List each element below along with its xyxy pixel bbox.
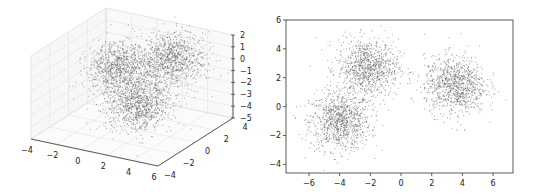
x-tick-label: −6 — [303, 179, 315, 188]
tick-label: 2 — [224, 135, 229, 144]
tick-label: −4 — [240, 102, 252, 111]
plot-frame — [286, 20, 513, 173]
y-axis-ticks: 6420−2−4 — [269, 16, 286, 169]
scatter-3d-panel: −4−20246−4−2024210−1−2−3−4−5 — [0, 0, 268, 194]
tick-label: 6 — [151, 173, 156, 182]
y-tick-label: 2 — [276, 74, 281, 83]
y-tick-label: 0 — [276, 103, 281, 112]
tick-label: −2 — [47, 151, 59, 160]
y-tick-label: 4 — [276, 45, 281, 54]
scatter-2d-plot: −6−4−20246 6420−2−4 — [268, 0, 534, 194]
3d-axis-panes — [31, 8, 233, 166]
tick-label: −1 — [240, 67, 252, 76]
scatter-3d-plot: −4−20246−4−2024210−1−2−3−4−5 — [0, 0, 268, 194]
x-tick-label: −4 — [334, 179, 346, 188]
tick-label: 0 — [240, 55, 245, 64]
x-axis-ticks: −6−4−20246 — [303, 173, 495, 188]
2d-scatter-points — [286, 26, 506, 171]
tick-label: 2 — [240, 31, 245, 40]
tick-label: −2 — [240, 78, 252, 87]
x-tick-label: 4 — [460, 179, 465, 188]
tick-label: −4 — [164, 171, 176, 180]
tick-label: −5 — [240, 114, 252, 123]
tick-label: −4 — [21, 146, 33, 155]
x-tick-label: −2 — [364, 179, 376, 188]
x-tick-label: 2 — [429, 179, 434, 188]
tick-label: −3 — [240, 90, 252, 99]
tick-label: −2 — [183, 159, 195, 168]
y-tick-label: 6 — [276, 16, 281, 25]
x-tick-label: 6 — [491, 179, 496, 188]
y-tick-label: −2 — [269, 131, 281, 140]
tick-label: 0 — [75, 157, 80, 166]
tick-label: 0 — [205, 147, 210, 156]
tick-label: 4 — [126, 168, 131, 177]
scatter-2d-panel: −6−4−20246 6420−2−4 — [268, 0, 534, 194]
tick-label: 2 — [101, 162, 106, 171]
tick-label: 1 — [240, 43, 245, 52]
x-tick-label: 0 — [398, 179, 403, 188]
tick-label: 4 — [242, 123, 247, 132]
y-tick-label: −4 — [269, 160, 281, 169]
